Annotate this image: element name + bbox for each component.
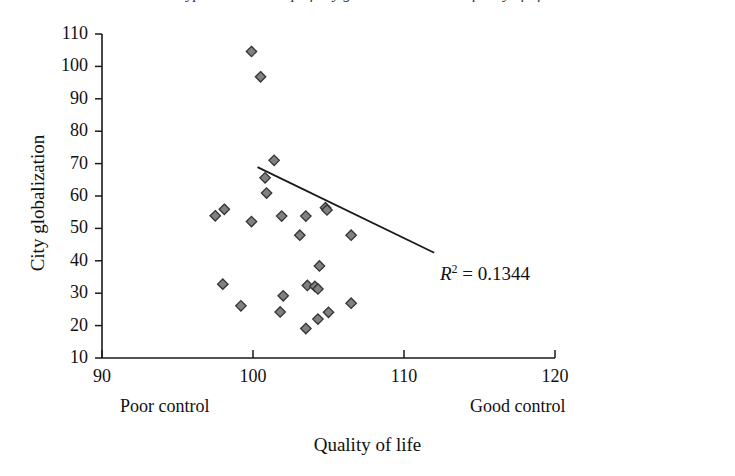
data-point-marker: [295, 230, 305, 240]
data-point-marker: [246, 216, 256, 226]
data-point-marker: [269, 155, 279, 165]
data-point-marker: [346, 230, 356, 240]
y-tick-label: 60: [42, 185, 88, 206]
x-tick-label: 90: [72, 366, 132, 387]
x-axis-title: Quality of life: [0, 434, 735, 456]
data-point-marker: [278, 291, 288, 301]
y-tick-label: 30: [42, 282, 88, 303]
x-tick-label: 100: [223, 366, 283, 387]
y-tick-label: 90: [42, 88, 88, 109]
data-point-marker: [219, 204, 229, 214]
y-tick-label: 50: [42, 217, 88, 238]
r-value-text: = 0.1344: [458, 263, 530, 284]
data-point-marker: [260, 173, 270, 183]
y-tick-label: 40: [42, 250, 88, 271]
r-squared-annotation: R2 = 0.1344: [440, 262, 530, 285]
data-point-marker: [313, 314, 323, 324]
figure-root: ypical relationship of city globalizatio…: [0, 0, 735, 476]
x-axis-high-annotation: Good control: [470, 396, 565, 417]
data-point-marker: [210, 211, 220, 221]
data-point-marker: [218, 279, 228, 289]
data-point-marker: [246, 46, 256, 56]
r-symbol: R: [440, 263, 452, 284]
data-point-marker: [301, 211, 311, 221]
trendline: [258, 167, 435, 253]
y-tick-label: 20: [42, 315, 88, 336]
x-axis-low-annotation: Poor control: [120, 396, 210, 417]
data-point-marker: [346, 298, 356, 308]
y-tick-label: 70: [42, 153, 88, 174]
scatter-plot-canvas: [0, 0, 735, 476]
data-point-marker: [301, 323, 311, 333]
y-tick-label: 100: [42, 55, 88, 76]
data-point-marker: [323, 307, 333, 317]
data-point-marker: [314, 261, 324, 271]
x-tick-label: 110: [374, 366, 434, 387]
data-point-marker: [236, 301, 246, 311]
data-point-marker: [276, 211, 286, 221]
data-point-marker: [255, 72, 265, 82]
x-tick-label: 120: [525, 366, 585, 387]
y-tick-label: 110: [42, 23, 88, 44]
data-point-marker: [275, 307, 285, 317]
y-tick-label: 10: [42, 347, 88, 368]
data-point-marker: [261, 188, 271, 198]
y-tick-label: 80: [42, 120, 88, 141]
